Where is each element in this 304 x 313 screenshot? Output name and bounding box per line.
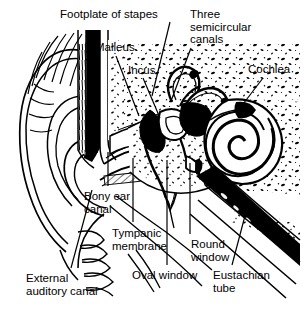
label-incus: Incus (128, 64, 156, 77)
label-bony-ear-canal: Bony ear canal (84, 190, 130, 215)
label-malleus: Malleus (95, 41, 135, 54)
label-tympanic-membrane: Tympanic membrane (112, 227, 167, 252)
ear-anatomy-illustration (0, 0, 304, 313)
label-oval-window: Oval window (132, 269, 197, 282)
label-eustachian-tube: Eustachian tube (213, 269, 270, 294)
label-footplate-of-stapes: Footplate of stapes (60, 8, 158, 21)
label-round-window: Round window (191, 238, 229, 263)
ear-anatomy-figure: Footplate of stapes Three semicircular c… (0, 0, 304, 313)
label-cochlea: Cochlea (248, 63, 290, 76)
label-three-semicircular-canals: Three semicircular canals (190, 8, 251, 46)
label-external-auditory-canal: External auditory canal (26, 272, 98, 297)
